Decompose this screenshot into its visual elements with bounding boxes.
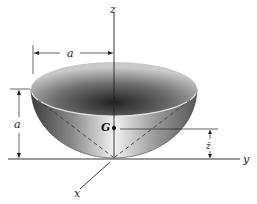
zbar-label: z̄ xyxy=(205,141,211,151)
centroid-point xyxy=(112,126,116,130)
z-axis-label: z xyxy=(109,3,116,16)
height-dim-label: a xyxy=(14,118,21,131)
x-axis xyxy=(80,162,110,189)
height-dim-arrow-bottom xyxy=(17,153,21,158)
height-dim-arrow-top xyxy=(17,90,21,95)
y-axis-label: y xyxy=(242,153,250,166)
centroid-label: G xyxy=(101,121,110,134)
hemisphere-diagram: z y x a a G z̄ xyxy=(0,0,257,204)
radius-dim-arrow-left xyxy=(34,51,39,55)
radius-dim-label: a xyxy=(67,47,74,60)
x-axis-label: x xyxy=(74,187,81,200)
radius-dim-arrow-right xyxy=(108,51,113,55)
zbar-arrow-bottom xyxy=(208,154,212,158)
zbar-arrow-top xyxy=(208,130,212,134)
